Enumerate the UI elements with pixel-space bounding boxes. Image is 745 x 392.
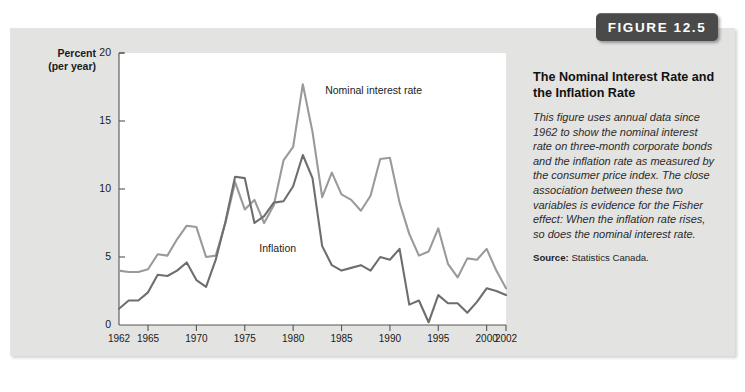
x-tick-1990: 1990	[373, 333, 407, 344]
series-line-nominal-interest-rate	[119, 84, 506, 288]
y-tick-20: 20	[89, 46, 111, 58]
caption-source-value: Statistics Canada.	[571, 252, 648, 263]
x-tick-1965: 1965	[131, 333, 165, 344]
y-tick-0: 0	[89, 318, 111, 330]
caption-source: Source: Statistics Canada.	[533, 252, 718, 263]
figure-page: FIGURE 12.5 Percent (per year) 05101520 …	[0, 0, 745, 392]
y-tick-10: 10	[89, 182, 111, 194]
caption-source-label: Source:	[533, 252, 569, 263]
axis-group	[119, 53, 506, 331]
figure-number-badge: FIGURE 12.5	[596, 13, 718, 41]
y-tick-5: 5	[89, 250, 111, 262]
chart-container: Percent (per year) 05101520 196219651970…	[20, 38, 520, 348]
x-tick-1980: 1980	[276, 333, 310, 344]
caption-body: This figure uses annual data since 1962 …	[533, 110, 718, 241]
annotation-inflation: Inflation	[259, 242, 296, 254]
caption-title: The Nominal Interest Rate and the Inflat…	[533, 70, 718, 101]
x-tick-2002: 2002	[489, 333, 523, 344]
x-tick-1985: 1985	[325, 333, 359, 344]
y-tick-15: 15	[89, 114, 111, 126]
caption-block: The Nominal Interest Rate and the Inflat…	[533, 70, 718, 263]
x-tick-1995: 1995	[421, 333, 455, 344]
x-tick-1970: 1970	[179, 333, 213, 344]
annotation-nominal-interest-rate: Nominal interest rate	[325, 84, 422, 96]
series-group	[119, 84, 506, 322]
x-tick-1975: 1975	[228, 333, 262, 344]
figure-number-label: FIGURE 12.5	[608, 20, 707, 35]
